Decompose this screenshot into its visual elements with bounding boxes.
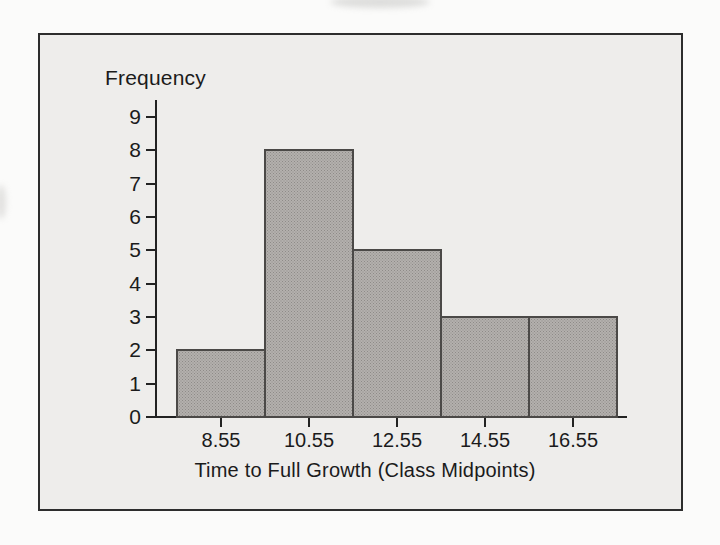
x-tick: [484, 418, 486, 427]
y-tick: [146, 216, 156, 218]
y-tick-label: 5: [91, 238, 141, 262]
bar: [264, 149, 354, 418]
y-tick: [146, 316, 156, 318]
y-tick-label: 3: [91, 305, 141, 329]
bar: [440, 316, 530, 418]
x-tick: [220, 418, 222, 427]
y-tick-label: 1: [91, 372, 141, 396]
x-tick: [572, 418, 574, 427]
y-tick: [146, 283, 156, 285]
x-tick-label: 8.55: [179, 428, 263, 452]
x-tick-label: 10.55: [267, 428, 351, 452]
y-tick: [146, 183, 156, 185]
y-tick: [146, 116, 156, 118]
y-tick-label: 8: [91, 138, 141, 162]
y-tick-label: 6: [91, 205, 141, 229]
scan-artifact-top: [330, 0, 430, 8]
x-tick: [396, 418, 398, 427]
y-tick-label: 7: [91, 172, 141, 196]
y-tick: [146, 149, 156, 151]
y-axis-title: Frequency: [105, 66, 206, 90]
bar: [352, 249, 442, 418]
scan-artifact-left: [0, 185, 6, 219]
y-tick: [146, 383, 156, 385]
y-axis-line: [155, 100, 157, 418]
y-tick-label: 9: [91, 105, 141, 129]
histogram-figure: Frequency 01234567898.5510.5512.5514.551…: [0, 0, 720, 545]
x-tick-label: 12.55: [355, 428, 439, 452]
x-axis-title: Time to Full Growth (Class Midpoints): [165, 459, 565, 482]
x-tick-label: 16.55: [531, 428, 615, 452]
bar: [176, 349, 266, 418]
x-tick-label: 14.55: [443, 428, 527, 452]
y-tick: [146, 249, 156, 251]
x-tick: [308, 418, 310, 427]
bar: [528, 316, 618, 418]
y-tick: [146, 349, 156, 351]
y-tick: [146, 416, 156, 418]
y-tick-label: 4: [91, 272, 141, 296]
y-tick-label: 0: [91, 405, 141, 429]
y-tick-label: 2: [91, 338, 141, 362]
